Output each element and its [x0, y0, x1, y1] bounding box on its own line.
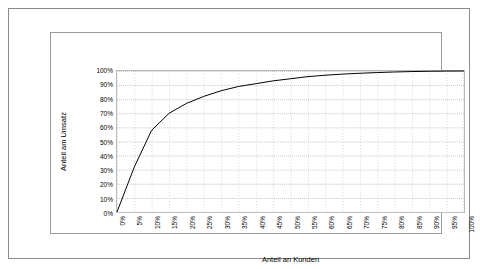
screenshot-root: Anteil am Umsatz 0%10%20%30%40%50%60%70%…: [0, 0, 480, 269]
concentration-curve: [117, 71, 464, 212]
x-tick-label: 90%: [433, 216, 440, 229]
y-tick-label: 0%: [83, 210, 113, 217]
y-tick-label: 10%: [83, 195, 113, 202]
plot-area: [116, 70, 465, 213]
y-tick-label: 50%: [83, 138, 113, 145]
x-tick-label: 15%: [171, 216, 178, 229]
gridlines: [117, 71, 464, 212]
y-tick-label: 40%: [83, 152, 113, 159]
x-tick-label: 75%: [381, 216, 388, 229]
x-tick-label: 100%: [468, 216, 475, 233]
x-tick-label: 40%: [259, 216, 266, 229]
y-tick-label: 60%: [83, 124, 113, 131]
y-tick-label: 30%: [83, 167, 113, 174]
x-tick-label: 70%: [363, 216, 370, 229]
figure-border: Anteil am Umsatz 0%10%20%30%40%50%60%70%…: [8, 8, 470, 259]
x-tick-label: 95%: [451, 216, 458, 229]
y-tick-label: 20%: [83, 181, 113, 188]
x-axis-tick-labels: 0%5%10%15%20%25%30%35%40%45%50%55%60%65%…: [116, 214, 465, 254]
x-tick-label: 0%: [119, 216, 126, 225]
x-tick-label: 45%: [276, 216, 283, 229]
x-axis-title: Anteil an Kunden: [116, 255, 465, 264]
y-tick-label: 100%: [83, 67, 113, 74]
x-tick-label: 85%: [416, 216, 423, 229]
x-tick-label: 55%: [311, 216, 318, 229]
x-tick-label: 30%: [224, 216, 231, 229]
x-tick-label: 25%: [206, 216, 213, 229]
x-tick-label: 65%: [346, 216, 353, 229]
y-tick-label: 90%: [83, 81, 113, 88]
y-axis-title: Anteil am Umsatz: [57, 70, 71, 213]
x-tick-label: 5%: [136, 216, 143, 225]
x-tick-label: 20%: [189, 216, 196, 229]
y-axis-tick-labels: 0%10%20%30%40%50%60%70%80%90%100%: [81, 70, 113, 213]
x-tick-label: 80%: [398, 216, 405, 229]
x-tick-label: 60%: [328, 216, 335, 229]
y-tick-label: 70%: [83, 109, 113, 116]
x-tick-label: 50%: [294, 216, 301, 229]
x-tick-label: 35%: [241, 216, 248, 229]
x-tick-label: 10%: [154, 216, 161, 229]
chart-container: Anteil am Umsatz 0%10%20%30%40%50%60%70%…: [50, 32, 442, 234]
y-tick-label: 80%: [83, 95, 113, 102]
